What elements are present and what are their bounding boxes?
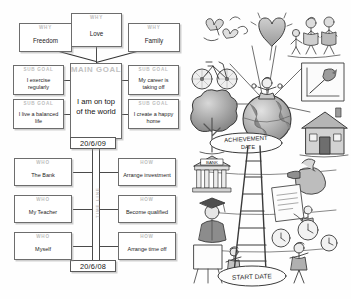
start-date-value: 20/6/08	[80, 262, 106, 271]
main-goal-value: I am on top of the world	[71, 75, 121, 138]
illustration-panel: ACHIEVEMENT DATE START DATE BANK	[186, 0, 351, 299]
who-box-the-bank-value: The Bank	[15, 166, 71, 185]
achievement-date-oval-sublabel: DATE	[241, 144, 255, 150]
main-goal-box[interactable]: MAIN GOAL I am on top of the world	[70, 63, 122, 139]
connector-how-3	[99, 246, 118, 247]
how-box-arrange-time-off-value: Arrange time off	[119, 240, 175, 259]
why-box-family[interactable]: WHY Family	[128, 23, 180, 52]
who-box-my-teacher[interactable]: WHO My Teacher	[14, 195, 72, 223]
who-box-the-bank[interactable]: WHO The Bank	[14, 158, 72, 186]
house-icon	[300, 108, 348, 157]
why-box-family-value: Family	[129, 31, 179, 51]
main-goal-header: MAIN GOAL	[71, 65, 121, 75]
sub-goal-career[interactable]: SUB GOAL My career is taking off	[128, 65, 179, 95]
sub-goal-exercise-value: I exercise regularly	[14, 73, 63, 94]
who-box-my-teacher-value: My Teacher	[15, 203, 71, 222]
person-on-globe-icon	[252, 77, 282, 99]
bicycle-icon	[192, 62, 237, 89]
connector-how-1	[99, 172, 118, 173]
why-box-freedom-value: Freedom	[20, 31, 71, 51]
graduate-figure-icon	[199, 198, 226, 243]
sub-goal-happy-home[interactable]: SUB GOAL I create a happy home	[128, 99, 179, 129]
connector-who-3	[73, 246, 93, 247]
heart-balloon-icon	[251, 13, 292, 60]
goal-setting-worksheet: WHY Freedom WHY Love WHY Family SUB GOAL…	[0, 0, 351, 299]
who-box-myself[interactable]: WHO Myself	[14, 232, 72, 260]
goal-map-panel: WHY Freedom WHY Love WHY Family SUB GOAL…	[0, 0, 186, 299]
ladder-icon	[234, 146, 266, 272]
connector-who-1	[73, 172, 93, 173]
achievement-date-box[interactable]: 20/6/09	[70, 137, 116, 149]
achievement-date-value: 20/6/09	[80, 139, 106, 148]
clock-person-figure	[290, 242, 308, 283]
growth-chart-icon	[302, 63, 344, 101]
why-box-love[interactable]: WHY Love	[71, 13, 122, 47]
how-box-arrange-time-off[interactable]: HOW Arrange time off	[118, 232, 176, 260]
butterflies-icon	[204, 17, 248, 41]
start-date-oval-label: START DATE	[232, 272, 273, 280]
how-box-arrange-investment[interactable]: HOW Arrange investment	[118, 158, 176, 186]
bank-sign-label: BANK	[206, 160, 218, 165]
how-box-become-qualified[interactable]: HOW Become qualified	[118, 195, 176, 223]
who-box-myself-value: Myself	[15, 240, 71, 259]
connector-who-2	[73, 209, 93, 210]
how-box-arrange-investment-value: Arrange investment	[119, 166, 175, 185]
how-box-become-qualified-value: Become qualified	[119, 203, 175, 222]
why-box-love-value: Love	[72, 21, 121, 46]
connector-how-2	[99, 209, 118, 210]
sub-goal-balanced-life-value: I live a balanced life	[14, 107, 63, 128]
sub-goal-career-value: My career is taking off	[129, 73, 178, 94]
family-figures-icon	[288, 17, 340, 58]
timeline-label: TIME LINE	[95, 181, 100, 225]
sub-goal-happy-home-value: I create a happy home	[129, 107, 178, 128]
sub-goal-exercise[interactable]: SUB GOAL I exercise regularly	[13, 65, 64, 95]
sub-goal-balanced-life[interactable]: SUB GOAL I live a balanced life	[13, 99, 64, 129]
start-date-box[interactable]: 20/6/08	[70, 260, 116, 272]
why-box-freedom[interactable]: WHY Freedom	[19, 23, 72, 52]
timeline-spine	[92, 146, 93, 260]
